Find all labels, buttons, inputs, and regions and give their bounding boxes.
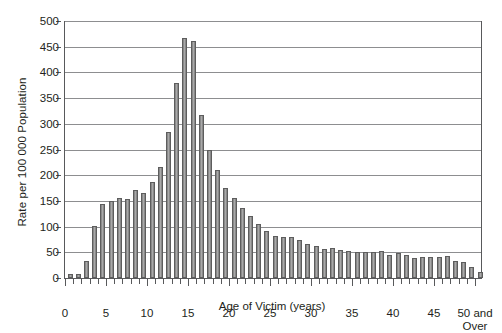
x-tick-mark-26 [278, 279, 279, 284]
x-tick-mark-44 [426, 279, 427, 284]
bar-age-6 [117, 198, 122, 278]
bar-age-4 [100, 204, 105, 278]
x-tick-mark-45 [434, 279, 435, 286]
bar-age-2 [84, 261, 89, 278]
bar-age-31 [322, 249, 327, 278]
x-tick-mark-6 [114, 279, 115, 284]
bar-age-36 [363, 252, 368, 278]
x-tick-mark-1 [73, 279, 74, 284]
bar-age-10 [150, 182, 155, 278]
bar-age-47 [453, 261, 458, 278]
y-tick-label-0: 0 [23, 273, 59, 283]
x-tick-mark-28 [295, 279, 296, 284]
x-tick-mark-40 [393, 279, 394, 286]
x-tick-mark-11 [155, 279, 156, 284]
bar-age-22 [248, 216, 253, 278]
x-tick-mark-17 [204, 279, 205, 284]
bar-age-7 [125, 199, 130, 278]
x-tick-mark-14 [180, 279, 181, 284]
bar-age-13 [174, 83, 179, 278]
bar-age-30 [314, 246, 319, 278]
gridline-400 [65, 72, 481, 73]
x-tick-mark-7 [122, 279, 123, 284]
x-tick-mark-4 [98, 279, 99, 284]
bar-age-42 [412, 258, 417, 278]
bar-age-21 [240, 208, 245, 278]
gridline-0 [65, 278, 481, 279]
bar-age-20 [232, 198, 237, 278]
bar-age-28 [297, 240, 302, 278]
gridline-200 [65, 175, 481, 176]
x-tick-mark-9 [139, 279, 140, 284]
plot-area: 05101520253035404550 andOver [64, 21, 482, 279]
x-tick-mark-20 [229, 279, 230, 286]
bar-age-14 [182, 38, 187, 278]
x-tick-mark-10 [147, 279, 148, 286]
x-tick-mark-35 [352, 279, 353, 286]
x-tick-mark-42 [409, 279, 410, 284]
bar-age-44 [428, 257, 433, 278]
bar-age-9 [141, 193, 146, 278]
x-tick-mark-38 [377, 279, 378, 284]
gridline-250 [65, 150, 481, 151]
x-tick-mark-50 [475, 279, 476, 286]
x-tick-mark-49 [467, 279, 468, 284]
gridline-500 [65, 21, 481, 22]
x-tick-mark-13 [172, 279, 173, 284]
x-tick-mark-32 [327, 279, 328, 284]
x-tick-mark-46 [442, 279, 443, 284]
x-tick-mark-18 [213, 279, 214, 284]
y-tick-label-450: 450 [23, 42, 59, 52]
bar-age-46 [445, 256, 450, 278]
bar-age-40 [396, 253, 401, 278]
x-tick-mark-37 [368, 279, 369, 284]
x-tick-mark-33 [336, 279, 337, 284]
x-tick-mark-23 [254, 279, 255, 284]
x-tick-mark-34 [344, 279, 345, 284]
bar-age-3 [92, 226, 97, 278]
bar-age-41 [404, 255, 409, 278]
bar-age-24 [264, 231, 269, 278]
x-tick-mark-36 [360, 279, 361, 284]
gridline-300 [65, 124, 481, 125]
bar-age-12 [166, 132, 171, 278]
bar-age-32 [330, 248, 335, 278]
bar-age-18 [215, 170, 220, 278]
bar-age-16 [199, 115, 204, 278]
bar-age-48 [461, 262, 466, 278]
x-tick-mark-27 [286, 279, 287, 284]
x-tick-mark-24 [262, 279, 263, 284]
bar-age-26 [281, 237, 286, 278]
bar-age-37 [371, 252, 376, 278]
x-tick-mark-16 [196, 279, 197, 284]
bar-age-8 [133, 190, 138, 278]
bar-age-0 [68, 274, 73, 278]
x-tick-mark-48 [459, 279, 460, 284]
x-tick-mark-5 [106, 279, 107, 286]
bar-age-45 [437, 257, 442, 278]
y-tick-label-400: 400 [23, 67, 59, 77]
bar-age-23 [256, 224, 261, 278]
bar-age-11 [158, 167, 163, 278]
x-tick-mark-30 [311, 279, 312, 286]
x-tick-mark-29 [303, 279, 304, 284]
bar-age-19 [223, 188, 228, 278]
bar-age-25 [273, 236, 278, 278]
x-tick-mark-47 [450, 279, 451, 284]
bar-age-43 [420, 257, 425, 278]
x-tick-mark-19 [221, 279, 222, 284]
bar-age-5 [109, 201, 114, 278]
x-tick-mark-25 [270, 279, 271, 286]
x-tick-mark-15 [188, 279, 189, 286]
x-tick-mark-41 [401, 279, 402, 284]
bar-age-15 [191, 41, 196, 278]
x-tick-mark-8 [131, 279, 132, 284]
bar-age-29 [305, 244, 310, 278]
x-tick-mark-43 [418, 279, 419, 284]
x-tick-mark-3 [90, 279, 91, 284]
y-tick-label-500: 500 [23, 16, 59, 26]
bar-age-33 [338, 250, 343, 278]
x-tick-mark-12 [163, 279, 164, 284]
bar-age-39 [387, 255, 392, 278]
x-tick-mark-2 [81, 279, 82, 284]
